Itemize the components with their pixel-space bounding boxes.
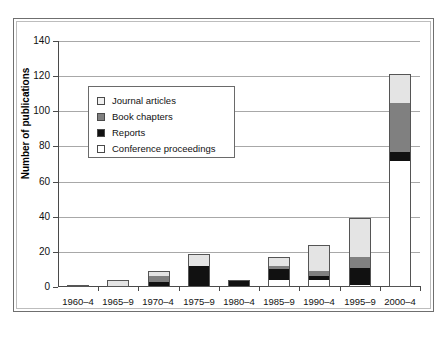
bar-segment-2000–4-conference-proceedings: [389, 161, 411, 288]
bar-segment-1990–4-reports: [308, 276, 330, 280]
legend-label-reports: Reports: [112, 128, 145, 138]
bar-segment-1995–9-journal-articles: [349, 218, 371, 257]
bar-segment-1975–9-journal-articles: [188, 254, 210, 266]
legend-item-book-chapters[interactable]: Book chapters: [97, 109, 234, 124]
bar-segment-1995–9-conference-proceedings: [349, 285, 371, 287]
bar-segment-1975–9-reports: [188, 266, 210, 287]
y-axis-title: Number of publications: [20, 39, 31, 209]
bar-1970–4[interactable]: [148, 271, 170, 287]
bar-1965–9[interactable]: [107, 280, 129, 287]
bar-1985–9[interactable]: [268, 257, 290, 287]
legend-item-conference-proceedings[interactable]: Conference proceedings: [97, 141, 234, 156]
bar-segment-1965–9-journal-articles: [107, 280, 129, 287]
legend-label-book-chapters: Book chapters: [112, 112, 173, 122]
x-tick-label-1965–9: 1965–9: [98, 296, 138, 307]
bar-segment-1970–4-reports: [148, 282, 170, 287]
bar-1995–9[interactable]: [349, 218, 371, 287]
x-tick-label-1990–4: 1990–4: [299, 296, 339, 307]
bar-segment-1985–9-conference-proceedings: [268, 280, 290, 287]
legend-swatch-book-chapters: [97, 113, 105, 121]
bar-1990–4[interactable]: [308, 245, 330, 287]
bar-segment-1985–9-reports: [268, 269, 290, 280]
bar-segment-1995–9-book-chapters: [349, 257, 371, 268]
bar-segment-1990–4-book-chapters: [308, 271, 330, 276]
bar-1975–9[interactable]: [188, 254, 210, 287]
legend-item-journal-articles[interactable]: Journal articles: [97, 93, 234, 108]
bar-segment-1980–4-reports: [228, 280, 250, 287]
legend-item-reports[interactable]: Reports: [97, 125, 234, 140]
x-tick-label-1980–4: 1980–4: [219, 296, 259, 307]
legend-label-conference-proceedings: Conference proceedings: [112, 144, 216, 154]
y-tick-label-0: 0: [8, 282, 50, 292]
bar-2000–4[interactable]: [389, 74, 411, 287]
legend-swatch-conference-proceedings: [97, 145, 105, 153]
bar-segment-1960–4-reports: [67, 285, 89, 287]
bar-1980–4[interactable]: [228, 280, 250, 287]
y-tick-label-40: 40: [8, 212, 50, 222]
x-tick-label-2000–4: 2000–4: [380, 296, 420, 307]
bar-segment-1985–9-journal-articles: [268, 257, 290, 266]
x-tick-label-1975–9: 1975–9: [179, 296, 219, 307]
x-tick-label-1960–4: 1960–4: [58, 296, 98, 307]
bar-segment-2000–4-book-chapters: [389, 103, 411, 152]
bar-segment-2000–4-journal-articles: [389, 74, 411, 102]
bar-segment-1990–4-journal-articles: [308, 245, 330, 271]
bar-segment-1995–9-reports: [349, 268, 371, 286]
bar-segment-1985–9-book-chapters: [268, 266, 290, 270]
x-tick-label-1985–9: 1985–9: [259, 296, 299, 307]
bar-segment-1970–4-journal-articles: [148, 271, 170, 276]
x-tick-8: [420, 286, 421, 291]
y-tick-label-20: 20: [8, 247, 50, 257]
legend-swatch-journal-articles: [97, 97, 105, 105]
x-tick-label-1995–9: 1995–9: [340, 296, 380, 307]
legend-swatch-reports: [97, 129, 105, 137]
bar-segment-1990–4-conference-proceedings: [308, 280, 330, 287]
figure-canvas: 020406080100120140 Number of publication…: [0, 0, 447, 338]
bar-1960–4[interactable]: [67, 285, 89, 287]
y-tick-0: [53, 287, 58, 288]
bar-segment-1970–4-book-chapters: [148, 276, 170, 281]
legend-label-journal-articles: Journal articles: [112, 96, 176, 106]
bars-group: [58, 41, 420, 287]
bar-segment-2000–4-reports: [389, 152, 411, 161]
x-tick-label-1970–4: 1970–4: [138, 296, 178, 307]
chart-legend: Journal articles Book chapters Reports C…: [88, 86, 235, 158]
